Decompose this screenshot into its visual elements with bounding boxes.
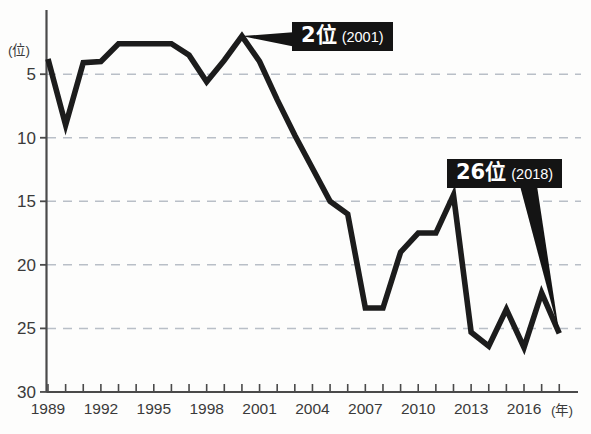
x-axis-unit-label: (年) (551, 403, 573, 418)
y-tick-label: 25 (17, 319, 36, 338)
x-tick-label: 2016 (507, 400, 541, 417)
chart-container: 51015202530 1989199219951998200120042007… (0, 0, 591, 434)
annotation-rank-peak: 2位 (301, 25, 337, 46)
rank-data-line (48, 36, 559, 347)
x-tick-label: 1989 (31, 400, 65, 417)
x-tick-label: 1998 (189, 400, 223, 417)
gridlines (47, 74, 581, 328)
rank-line-chart: 51015202530 1989199219951998200120042007… (0, 0, 591, 434)
x-tick-label: 2007 (348, 400, 382, 417)
x-tick-label: 2010 (401, 400, 436, 417)
y-tick-label: 5 (27, 65, 36, 84)
y-axis-unit-label: (位) (8, 43, 30, 58)
x-tick-label: 2013 (454, 400, 488, 417)
annotation-callout-peak: 2位 (2001) (292, 22, 393, 51)
y-tick-labels: 51015202530 (17, 65, 36, 402)
x-tick-marks (48, 384, 559, 392)
x-tick-label: 2004 (295, 400, 330, 417)
annotation-callout-latest: 26位 (2018) (447, 159, 562, 188)
y-tick-label: 15 (17, 192, 36, 211)
y-tick-label: 20 (17, 256, 36, 275)
x-tick-label: 2001 (242, 400, 276, 417)
x-tick-label: 1995 (137, 400, 171, 417)
x-tick-label: 1992 (84, 400, 118, 417)
x-tick-labels: 1989199219951998200120042007201020132016 (31, 400, 541, 417)
y-tick-label: 10 (17, 129, 36, 148)
annotation-rank-latest: 26位 (456, 162, 506, 183)
callout-pointer-latest (520, 186, 559, 334)
annotation-year-peak: (2001) (342, 30, 384, 45)
annotation-year-latest: (2018) (511, 167, 553, 182)
